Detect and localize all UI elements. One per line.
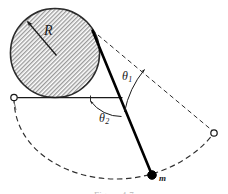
theta2-subscript: 2	[105, 117, 109, 126]
theta1-label: θ1	[122, 70, 132, 84]
left-pivot-marker	[11, 94, 17, 100]
theta2-label: θ2	[99, 112, 109, 126]
dashed-chord-line	[92, 30, 214, 132]
theta1-subscript: 1	[128, 75, 132, 84]
figure-canvas	[0, 0, 228, 194]
pendulum-rod	[93, 31, 153, 176]
figure-caption-strip: Figure 4.7	[0, 187, 228, 194]
point-mass	[148, 171, 157, 180]
radius-label: R	[44, 24, 53, 38]
right-pivot-marker	[211, 130, 217, 136]
physics-figure-pendulum-on-disk: R θ1 θ2 m Figure 4.7	[0, 0, 228, 194]
figure-caption: Figure 4.7	[94, 190, 134, 194]
dashed-trajectory-arc	[14, 98, 214, 179]
mass-label: m	[159, 174, 166, 183]
